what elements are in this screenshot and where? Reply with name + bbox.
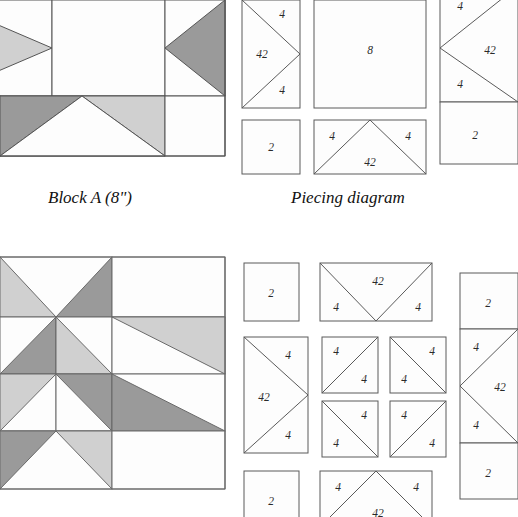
piecing-b-middle-row: 4 42 4 4 4 4 4 (244, 337, 446, 457)
unit-hst-bottom-left: 4 4 (322, 401, 378, 457)
unit-square-2: 2 (244, 471, 299, 517)
label-8: 8 (367, 44, 373, 56)
block-a-row-1 (0, 0, 225, 96)
unit-flying-geese-up: 4 4 42 (314, 120, 426, 174)
label-42: 42 (484, 44, 496, 56)
label-42: 42 (258, 391, 270, 403)
label-4: 4 (473, 419, 479, 431)
label-4: 4 (401, 409, 407, 421)
label-4: 4 (429, 437, 435, 449)
label-4: 4 (279, 8, 285, 20)
label-4: 4 (361, 409, 367, 421)
label-4: 4 (333, 345, 339, 357)
unit-square-2: 2 (242, 120, 300, 174)
caption-piecing-diagram-a: Piecing diagram (291, 188, 405, 208)
block-b-piecing-diagram: 2 42 4 4 4 42 (238, 255, 518, 517)
unit-square-2: 2 (440, 102, 518, 164)
label-4: 4 (473, 341, 479, 353)
unit-flying-geese-left: 4 42 4 (460, 329, 518, 443)
label-2: 2 (485, 467, 491, 479)
block-b-row-2 (0, 374, 225, 431)
label-42: 42 (494, 381, 506, 393)
label-4: 4 (413, 481, 419, 493)
label-42: 42 (372, 507, 384, 517)
unit-hst-bottom-right: 4 4 (390, 401, 446, 457)
unit-square-8: 8 (314, 0, 426, 108)
block-b-illustration (0, 257, 230, 497)
unit-square-2-bottom: 2 (460, 443, 518, 499)
label-4: 4 (285, 349, 291, 361)
label-42: 42 (364, 156, 376, 168)
piecing-a-center-column: 8 4 4 42 (314, 0, 426, 174)
block-a-illustration (0, 0, 230, 160)
label-4: 4 (457, 78, 463, 90)
unit-hst-top-left: 4 4 (322, 337, 378, 393)
piecing-b-right-strip: 2 4 42 4 2 (460, 273, 518, 499)
unit-flying-geese-left: 4 42 4 (440, 0, 518, 102)
label-4: 4 (405, 130, 411, 142)
unit-square-2-top: 2 (460, 273, 518, 329)
unit-flying-geese-down: 42 4 4 (320, 263, 432, 321)
label-42: 42 (256, 48, 268, 60)
block-b-row-0 (0, 257, 225, 317)
label-4: 4 (333, 301, 339, 313)
label-2: 2 (268, 287, 274, 299)
block-a-piecing-diagram: 4 42 4 2 8 (238, 0, 518, 182)
caption-block-a: Block A (8") (48, 188, 132, 208)
label-2: 2 (268, 141, 274, 153)
label-4: 4 (285, 429, 291, 441)
block-b-row-1 (0, 317, 225, 374)
unit-square-2: 2 (244, 263, 299, 321)
piecing-a-right-column: 4 42 4 2 (440, 0, 518, 164)
unit-flying-geese-right: 4 42 4 (242, 0, 300, 108)
label-4: 4 (457, 0, 463, 12)
label-4: 4 (415, 301, 421, 313)
unit-flying-geese-up: 4 4 42 (320, 471, 432, 517)
unit-flying-geese-right: 4 42 4 (244, 337, 308, 453)
piecing-a-left-column: 4 42 4 2 (242, 0, 300, 174)
label-4: 4 (333, 437, 339, 449)
label-4: 4 (401, 373, 407, 385)
label-4: 4 (279, 84, 285, 96)
label-4: 4 (429, 345, 435, 357)
piecing-b-top-row: 2 42 4 4 (244, 263, 432, 321)
label-2: 2 (472, 129, 478, 141)
label-2: 2 (485, 297, 491, 309)
label-42: 42 (372, 275, 384, 287)
unit-hst-top-right: 4 4 (390, 337, 446, 393)
label-4: 4 (329, 130, 335, 142)
label-4: 4 (335, 481, 341, 493)
label-2: 2 (268, 495, 274, 507)
piecing-b-bottom-row: 2 4 4 42 (244, 471, 432, 517)
label-4: 4 (361, 373, 367, 385)
